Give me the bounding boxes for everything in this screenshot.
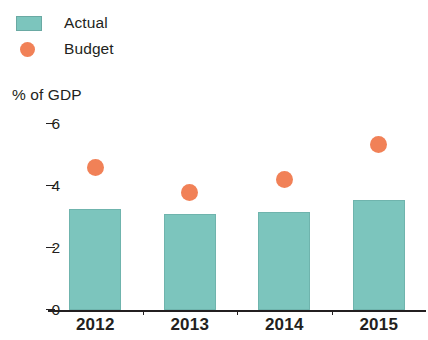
x-axis-tick-mark <box>237 310 238 315</box>
gdp-actual-vs-budget-chart: Actual Budget % of GDP 02462012201320142… <box>0 0 428 340</box>
y-axis-tick-mark <box>46 309 55 310</box>
y-axis-tick-mark <box>46 185 55 186</box>
dot-budget-2015 <box>370 136 387 153</box>
x-axis-tick-label-2015: 2015 <box>344 315 414 335</box>
x-axis-tick-label-2013: 2013 <box>155 315 225 335</box>
bar-actual-2014 <box>258 212 310 310</box>
x-axis-tick-mark <box>143 310 144 315</box>
plot-area: 02462012201320142015 <box>0 0 428 340</box>
dot-budget-2012 <box>87 159 104 176</box>
x-axis-tick-label-2012: 2012 <box>60 315 130 335</box>
y-axis-tick-mark <box>46 247 55 248</box>
dot-budget-2013 <box>181 184 198 201</box>
bar-actual-2013 <box>164 214 216 310</box>
bar-actual-2015 <box>353 200 405 310</box>
bar-actual-2012 <box>69 209 121 310</box>
dot-budget-2014 <box>276 171 293 188</box>
y-axis-tick-mark <box>46 123 55 124</box>
x-axis-tick-mark <box>332 310 333 315</box>
x-axis-tick-label-2014: 2014 <box>249 315 319 335</box>
